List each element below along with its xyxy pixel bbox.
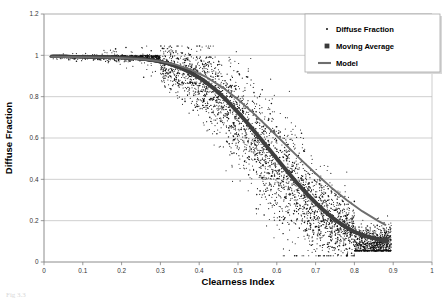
figure-container: 00.10.20.30.40.50.60.70.80.91 00.20.40.6… — [0, 0, 448, 301]
x-tick-label: 0.5 — [234, 267, 243, 274]
chart-legend: Diffuse FractionMoving AverageModel — [305, 14, 442, 74]
x-tick-label: 0.7 — [311, 267, 320, 274]
y-tick-label: 0.8 — [30, 93, 39, 100]
y-tick-label: 0.2 — [30, 217, 39, 224]
x-tick-label: 0.4 — [195, 267, 204, 274]
x-tick-label: 0.3 — [156, 267, 165, 274]
figure-caption: Fig 3.3 — [6, 291, 26, 299]
x-tick-label: 1 — [430, 267, 434, 274]
legend-entry-label: Model — [336, 59, 358, 68]
y-tick-label: 0.6 — [30, 134, 39, 141]
x-tick-label: 0.1 — [78, 267, 87, 274]
y-tick-label: 0 — [35, 258, 39, 265]
x-axis-title: Clearness Index — [202, 276, 276, 287]
y-tick-label: 1.2 — [30, 10, 39, 17]
legend-marker-dot — [326, 28, 328, 30]
y-tick-label: 0.4 — [30, 176, 39, 183]
x-tick-label: 0.8 — [350, 267, 359, 274]
y-tick-label: 1 — [35, 52, 39, 59]
y-axis-title: Diffuse Fraction — [3, 102, 14, 175]
legend-entry-label: Moving Average — [336, 42, 394, 51]
x-tick-label: 0.9 — [389, 267, 398, 274]
x-tick-label: 0 — [42, 267, 46, 274]
x-tick-label: 0.6 — [272, 267, 281, 274]
diffuse-fraction-scatter-chart: 00.10.20.30.40.50.60.70.80.91 00.20.40.6… — [0, 0, 448, 301]
legend-marker-square — [325, 44, 330, 49]
x-tick-label: 0.2 — [117, 267, 126, 274]
legend-entry-label: Diffuse Fraction — [336, 25, 394, 34]
